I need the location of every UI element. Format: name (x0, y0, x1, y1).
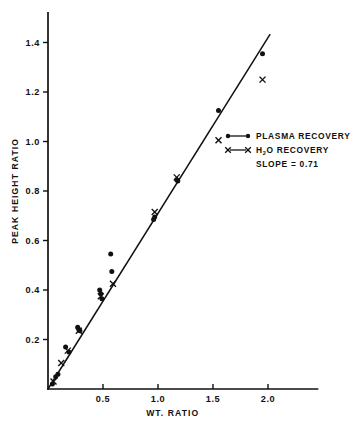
series-h2o-recovery (51, 77, 266, 385)
series-plasma-recovery (50, 51, 265, 386)
y-tick-label: 0.8 (25, 186, 40, 196)
legend-marker-dot (246, 134, 250, 138)
data-point-dot (152, 214, 157, 219)
x-tick-label: 0.5 (96, 394, 111, 404)
y-tick-label: 1.0 (25, 137, 40, 147)
legend-label-h2o-recovery: H2O RECOVERY (256, 145, 329, 156)
regression-line (48, 34, 270, 389)
legend-label-plasma-recovery: PLASMA RECOVERY (256, 131, 351, 141)
y-tick-label: 0.2 (25, 335, 40, 345)
data-point-dot (55, 372, 60, 377)
y-tick-label: 0.4 (25, 285, 40, 295)
data-points (50, 51, 266, 386)
x-axis-title: WT. RATIO (146, 408, 199, 418)
figure-container: 0.20.40.60.81.01.21.40.51.01.52.0 WT. RA… (0, 0, 355, 433)
data-point-dot (216, 108, 221, 113)
y-tick-label: 0.6 (25, 236, 40, 246)
data-point-dot (260, 51, 265, 56)
legend-marker-dot (226, 134, 230, 138)
scatter-plot: 0.20.40.60.81.01.21.40.51.01.52.0 WT. RA… (0, 0, 355, 433)
data-point-dot (108, 252, 113, 257)
axes (48, 13, 318, 389)
legend-slope-text: SLOPE = 0.71 (256, 159, 319, 169)
fit-line (48, 34, 270, 389)
x-tick-label: 1.5 (206, 394, 221, 404)
legend: PLASMA RECOVERYH2O RECOVERYSLOPE = 0.71 (225, 131, 350, 169)
data-point-dot (109, 269, 114, 274)
y-tick-label: 1.2 (25, 87, 40, 97)
y-tick-label: 1.4 (25, 38, 40, 48)
x-tick-label: 1.0 (151, 394, 166, 404)
axis-tick-labels: 0.20.40.60.81.01.21.40.51.01.52.0 (25, 38, 275, 404)
axis-titles: WT. RATIOPEAK HEIGHT RATIO (10, 138, 199, 418)
x-tick-label: 2.0 (261, 394, 276, 404)
y-axis-title: PEAK HEIGHT RATIO (10, 138, 20, 244)
